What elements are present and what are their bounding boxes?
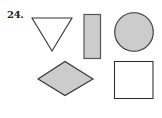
triangle-shape [32,18,72,51]
rectangle-shape [84,15,101,59]
square-shape [115,62,154,99]
shapes-figure [0,0,162,118]
circle-shape [115,13,154,52]
rhombus-shape [38,62,93,96]
